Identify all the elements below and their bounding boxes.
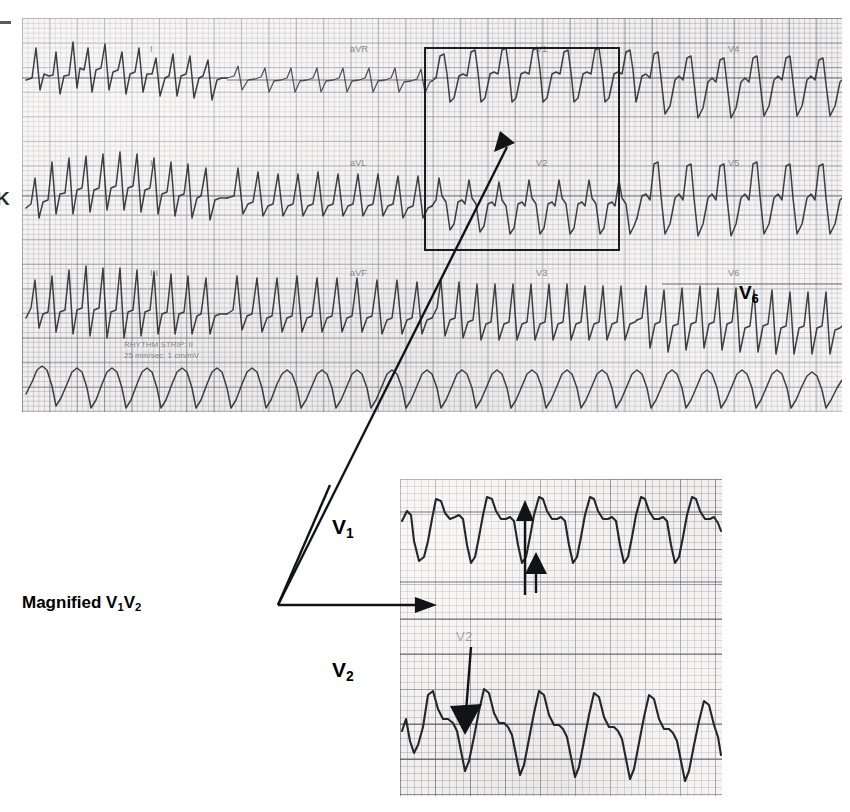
lead-label-V4: V4 <box>728 44 740 54</box>
page-edge-dash-mark <box>0 21 11 24</box>
annotation-label-v1: V1 <box>332 516 354 537</box>
magnified-v1-v2-panel: V2 <box>400 479 722 796</box>
v1-subscript: 1 <box>346 525 354 541</box>
annotation-label-v6: V6 <box>739 283 759 302</box>
lead-label-aVR: aVR <box>350 44 368 54</box>
magnified-caption-text: Magnified V <box>22 593 117 612</box>
magnified-caption: Magnified V1V2 <box>22 594 141 611</box>
lead-label-II: II <box>150 158 156 168</box>
page-edge-letter-mark: K <box>0 188 10 210</box>
magnified-caption-text-2: V <box>124 593 135 612</box>
lead-label-V3: V3 <box>536 268 548 278</box>
lead-label-I: I <box>150 44 153 54</box>
annotation-label-v2: V2 <box>332 659 354 680</box>
v2-subscript: 2 <box>346 668 354 684</box>
calibration-text: 25 mm/sec; 1 cm/mV <box>124 351 199 361</box>
lead-label-III: III <box>150 268 158 278</box>
v1-letter: V <box>332 515 346 538</box>
v6-letter: V <box>739 282 752 303</box>
lead-label-aVF: aVF <box>350 268 367 278</box>
region-of-interest-box[interactable] <box>424 47 620 251</box>
leader-line-v1 <box>278 485 330 605</box>
lead-label-aVL: aVL <box>350 158 367 168</box>
magnified-sub-2: 2 <box>135 601 141 613</box>
v6-subscript: 6 <box>752 292 759 306</box>
magnified-ecg-traces <box>400 479 722 796</box>
magnified-sub-1: 1 <box>117 601 123 613</box>
lead-label-V6: V6 <box>728 268 740 278</box>
lead-label-V5: V5 <box>728 158 740 168</box>
rhythm-strip-text: RHYTHM STRIP: II <box>124 340 193 350</box>
v2-letter: V <box>332 658 346 681</box>
ecg-figure: K <box>0 0 850 812</box>
magnified-lead-label-v2: V2 <box>456 629 473 644</box>
